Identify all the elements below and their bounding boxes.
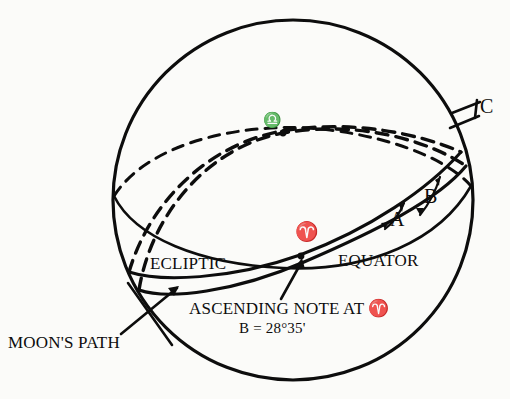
angle-b-label: B — [424, 186, 438, 206]
ascending-node-label: ASCENDING NOTE AT ♈ — [189, 300, 390, 317]
figure-canvas: ECLIPTIC EQUATOR MOON'S PATH ASCENDING N… — [0, 0, 510, 399]
moons-path-label: MOON'S PATH — [8, 334, 120, 351]
equator-back-dashed — [114, 128, 471, 196]
descending-node-point — [280, 130, 287, 137]
ascending-node-point — [298, 253, 305, 260]
aries-symbol-icon: ♈ — [295, 222, 319, 241]
angle-c-label: C — [480, 96, 494, 116]
ecliptic-label: ECLIPTIC — [150, 255, 226, 272]
libra-symbol-icon: ♎ — [263, 113, 282, 128]
b-value-label: B = 28°35' — [239, 321, 306, 336]
equator-label: EQUATOR — [338, 252, 418, 269]
angle-a-label: A — [390, 209, 405, 229]
